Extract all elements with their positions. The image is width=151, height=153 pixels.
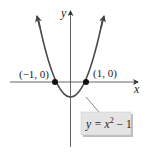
- point-1-0: [83, 79, 89, 85]
- graph-canvas: y x (−1, 0) (1, 0) y = x2 − 1: [0, 0, 151, 153]
- y-axis-label: y: [60, 6, 67, 20]
- equation-label: y = x2 − 1: [85, 116, 132, 131]
- label-leader-line: [86, 97, 99, 112]
- point-label-1-0: (1, 0): [93, 67, 117, 80]
- equation-prefix: y = x: [85, 118, 111, 131]
- equation-suffix: − 1: [114, 118, 132, 130]
- point-neg1-0: [52, 79, 58, 85]
- point-label-neg1-0: (−1, 0): [19, 68, 49, 81]
- x-axis-label: x: [133, 82, 140, 96]
